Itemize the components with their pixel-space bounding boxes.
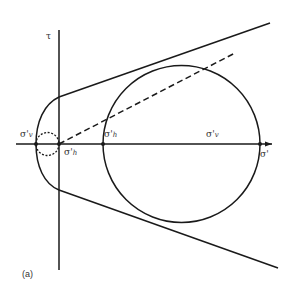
label-subscript: h [113,131,118,139]
label-subscript: v [29,131,33,139]
label-subscript: h [73,149,78,157]
label-sigma-h-mid: σ'h [104,130,117,139]
label-sigma-v-left: σ'v [20,130,33,139]
point-origin [57,142,61,146]
figure-caption: (a) [22,270,33,279]
label-sigma-v-right: σ'v [206,130,219,139]
point-sigma-v-left [34,142,38,146]
sigma-axis-arrow [265,142,272,147]
point-sigma-v-right [258,142,262,146]
tau-axis-label: τ [46,32,51,41]
tau-label-text: τ [46,31,51,41]
label-subscript: v [215,131,219,139]
lower-failure-envelope [59,190,278,268]
label-text: σ' [206,129,215,139]
sigma-label-text: σ' [260,149,269,159]
sigma-axis-label: σ' [260,150,269,159]
point-sigma-h-mid [101,142,105,146]
label-text: σ' [104,129,113,139]
upper-failure-envelope [59,23,270,97]
label-text: σ' [64,147,73,157]
mohr-diagram [0,0,297,297]
label-sigma-h-origin: σ'h [64,148,77,157]
label-text: σ' [20,129,29,139]
